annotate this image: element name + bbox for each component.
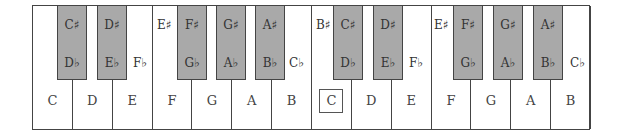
flat-label: B♭: [534, 56, 562, 70]
black-key-g-sharp: G♯ A♭: [216, 6, 246, 80]
enharmonic-label-e-sharp: E♯: [434, 18, 449, 32]
key-label: F: [432, 94, 471, 108]
middle-c-box: C: [319, 89, 343, 113]
key-label: E: [113, 94, 152, 108]
black-key-f-sharp: F♯ G♭: [177, 6, 207, 80]
flat-label: D♭: [58, 56, 86, 70]
enharmonic-label-c-flat: C♭: [289, 56, 304, 70]
sharp-label: F♯: [454, 18, 482, 32]
flat-label: B♭: [256, 56, 284, 70]
black-key-c-sharp: C♯ D♭: [333, 6, 363, 80]
key-label: A: [511, 94, 550, 108]
sharp-label: A♯: [256, 18, 284, 32]
enharmonic-label-e-sharp: E♯: [157, 18, 172, 32]
sharp-label: D♯: [374, 18, 402, 32]
key-label: D: [73, 94, 112, 108]
black-key-f-sharp: F♯ G♭: [453, 6, 483, 80]
flat-label: G♭: [178, 56, 206, 70]
piano-keyboard: C D E F G A B C D E F G A B C♯ D♭ D♯ E: [32, 5, 590, 130]
key-label: F: [153, 94, 192, 108]
enharmonic-label-b-sharp: B♯: [316, 18, 331, 32]
enharmonic-label-f-flat: F♭: [409, 56, 423, 70]
key-label: B: [551, 94, 590, 108]
sharp-label: C♯: [58, 18, 86, 32]
enharmonic-label-f-flat: F♭: [133, 56, 147, 70]
key-label: G: [471, 94, 510, 108]
key-label: E: [392, 94, 431, 108]
black-key-d-sharp: D♯ E♭: [373, 6, 403, 80]
key-label-boxed: C: [312, 94, 351, 113]
sharp-label: A♯: [534, 18, 562, 32]
flat-label: A♭: [217, 56, 245, 70]
flat-label: A♭: [494, 56, 522, 70]
key-label: G: [192, 94, 231, 108]
black-key-a-sharp: A♯ B♭: [533, 6, 563, 80]
black-key-g-sharp: G♯ A♭: [493, 6, 523, 80]
key-label: C: [33, 94, 72, 108]
sharp-label: G♯: [217, 18, 245, 32]
key-label: A: [232, 94, 271, 108]
flat-label: G♭: [454, 56, 482, 70]
flat-label: E♭: [98, 56, 126, 70]
sharp-label: F♯: [178, 18, 206, 32]
sharp-label: G♯: [494, 18, 522, 32]
black-key-c-sharp: C♯ D♭: [57, 6, 87, 80]
sharp-label: D♯: [98, 18, 126, 32]
enharmonic-label-c-flat: C♭: [570, 56, 585, 70]
black-key-a-sharp: A♯ B♭: [255, 6, 285, 80]
key-label: B: [272, 94, 311, 108]
flat-label: D♭: [334, 56, 362, 70]
sharp-label: C♯: [334, 18, 362, 32]
black-key-d-sharp: D♯ E♭: [97, 6, 127, 80]
flat-label: E♭: [374, 56, 402, 70]
key-label: D: [352, 94, 391, 108]
